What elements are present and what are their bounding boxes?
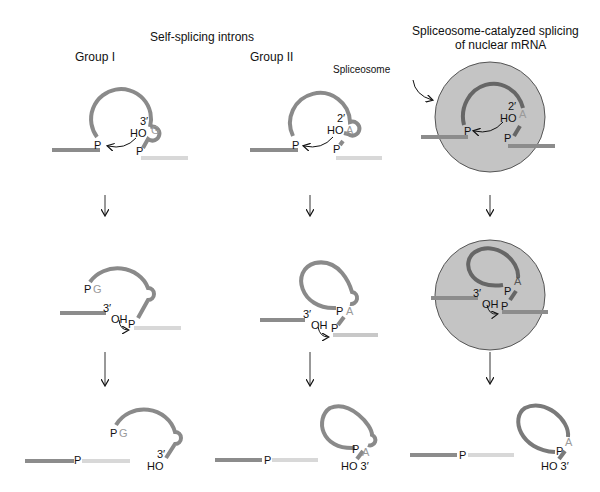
group1-stage1 [52,89,188,158]
sp-r3-a: A [565,436,572,448]
sp-r1-a: A [519,108,526,120]
g1-r2-g: G [93,283,102,295]
g2-r3-ho3: HO 3′ [341,460,369,472]
g2-r2-p-lariat: P [336,305,343,317]
spliceosome-stage3 [410,405,568,459]
g1-r2-3prime: 3′ [103,302,111,314]
sp-r2-oh: OH [482,298,499,310]
down-arrows-1 [105,195,490,215]
g2-r2-oh: OH [311,319,328,331]
g1-r1-p-right: P [136,145,143,157]
sp-r2-p-lariat: P [504,285,511,297]
g1-r2-oh: OH [111,313,128,325]
g2-r2-a: A [346,305,353,317]
sp-r1-ho: HO [500,112,517,124]
sp-r1-2prime: 2′ [508,100,516,112]
g2-r1-a: A [346,124,353,136]
sp-r3-p: P [556,445,563,457]
spliceosome-circle-top [435,62,545,172]
g2-r1-ho: HO [327,124,344,136]
sp-r1-p-left: P [464,125,471,137]
g2-r3-a: A [362,446,369,458]
g1-r1-p-left: P [94,139,101,151]
g1-r3-p: P [110,427,117,439]
g1-r1-g: G [151,124,160,136]
g2-r3-p-junction: P [264,454,271,466]
g1-r3-g: G [119,427,128,439]
g1-r3-p-junction: P [74,454,81,466]
g2-r1-2prime: 2′ [337,112,345,124]
sp-r1-p-right: P [504,132,511,144]
g1-r3-ho: HO [147,460,164,472]
g2-r2-p: P [331,322,338,334]
g1-r2-p: P [84,283,91,295]
down-arrows-2 [105,352,490,385]
g1-r3-3prime: 3′ [157,448,165,460]
g1-r1-ho: HO [130,127,147,139]
group2-stage1 [250,93,382,158]
spliceosome-circle-mid [435,240,545,350]
g2-r1-p-right: P [333,143,340,155]
g1-r2-p: P [128,318,135,330]
sp-r2-3prime: 3′ [473,287,481,299]
sp-r2-a: A [514,275,521,287]
g2-r1-p-left: P [292,139,299,151]
splicing-diagram [0,0,600,492]
sp-r3-ho3: HO 3′ [541,460,569,472]
sp-r3-p-junction: P [459,449,466,461]
g1-r1-3prime: 3′ [140,115,148,127]
spliceosome-pointer-arrow [413,80,432,100]
g2-r3-p: P [352,443,359,455]
g2-r2-3prime: 3′ [303,308,311,320]
sp-r2-p: P [501,300,508,312]
